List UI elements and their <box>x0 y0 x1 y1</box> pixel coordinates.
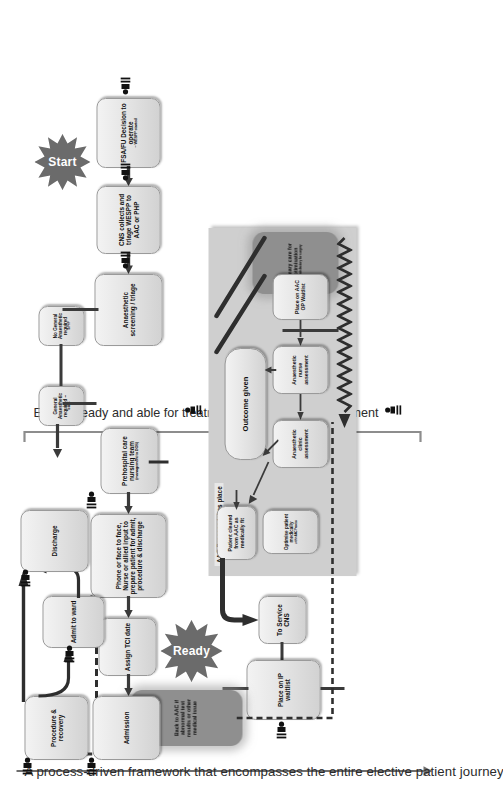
patient-icon-anaesthetic-screening <box>112 248 138 270</box>
connector-aac-to-screening-stem <box>62 402 96 405</box>
node-prehospital-care-nursing-team-sub: (management to DOS) <box>134 442 138 480</box>
node-ga-required[interactable]: General Anaesthetic required – To AAC <box>38 386 84 426</box>
connector-screening-stem <box>62 308 98 311</box>
arrow-waitlist-to-nurse <box>294 320 306 346</box>
node-discharge-label: Discharge <box>50 526 57 557</box>
node-cns-collects[interactable]: CNS collects and triage WESPP to AAC or … <box>96 186 160 254</box>
node-phone-or-face-to-face-label: Phone or face to face, Nurse or allied i… <box>114 517 143 595</box>
node-prehospital-care-nursing-team-label: Prehospital care nursing team <box>120 431 134 491</box>
node-fsa-fu-decision-sub: – WESPP started <box>133 119 137 148</box>
marker-start-label: Start <box>48 155 76 169</box>
node-phone-or-face-to-face[interactable]: Phone or face to face, Nurse or allied i… <box>90 514 166 598</box>
marker-ready-label: Ready <box>172 644 209 658</box>
arrow-assign-tci-to-admission <box>122 674 134 696</box>
node-assign-tci-date[interactable]: Assign TCI date <box>98 618 156 676</box>
node-place-aac-op-waitlist[interactable]: Place on AAC OP Waitlist <box>272 274 328 320</box>
node-anaesthetic-nurse-assessment[interactable]: Anaesthetic nurse assessment <box>272 346 328 394</box>
node-admit-to-ward[interactable]: Admit to ward <box>42 596 104 648</box>
node-admission-label: Admission <box>122 712 129 745</box>
patient-icon-prehospital <box>78 490 104 512</box>
patient-icon-admit-ward <box>56 644 82 666</box>
arrow-nurse-to-outcome <box>264 364 276 376</box>
connector-primary-care-to-clinic <box>210 234 272 330</box>
marker-start: Start <box>34 134 90 190</box>
node-procedure-recovery-label: Procedure & recovery <box>49 699 63 757</box>
node-no-ga-required[interactable]: No General Anaesthetic required To PHP <box>38 306 84 346</box>
node-cns-collects-label: CNS collects and triage WESPP to AAC or … <box>117 189 139 251</box>
patient-icon-procedure <box>14 756 40 778</box>
node-no-ga-required-sub: To PHP <box>67 322 70 331</box>
node-back-to-aac-loop-label: Back to AAC if abnormal test results or … <box>174 692 197 744</box>
node-discharge[interactable]: Discharge <box>20 510 88 572</box>
arrow-phone-to-assign-tci <box>122 596 134 618</box>
node-fsa-fu-decision-label: FSA/FU Decision to operate <box>119 101 133 165</box>
node-admit-to-ward-label: Admit to ward <box>69 601 76 644</box>
arrow-prehospital-to-phone <box>122 492 134 514</box>
connector-waitlist-to-prehospital <box>148 452 258 498</box>
node-fsa-fu-decision[interactable]: FSA/FU Decision to operate – WESPP start… <box>96 98 160 168</box>
waiting-period-zigzag <box>336 234 352 434</box>
connector-waitlist-vertical <box>282 329 338 332</box>
node-place-aac-op-waitlist-label: Place on AAC OP Waitlist <box>294 277 306 317</box>
node-anaesthetic-screening-label: Anaesthetic screening / triage <box>121 277 135 343</box>
node-procedure-recovery[interactable]: Procedure & recovery <box>24 696 88 760</box>
patient-icon-cns <box>112 160 138 182</box>
patient-icon-ensure-ready <box>180 400 206 420</box>
connector-screening-to-ga <box>59 344 62 386</box>
node-anaesthetic-nurse-assessment-label: Anaesthetic nurse assessment <box>291 349 308 391</box>
node-admission[interactable]: Admission <box>92 696 160 760</box>
node-ga-required-label: General Anaesthetic required – <box>52 389 67 423</box>
patient-icon-discharge <box>12 568 38 590</box>
patient-icon-ensure-fit <box>380 400 406 420</box>
node-no-ga-required-label: No General Anaesthetic required <box>52 309 67 343</box>
node-assign-tci-date-label: Assign TCI date <box>123 623 130 671</box>
arrow-ga-to-aac-region <box>50 424 64 458</box>
patient-icon-fsa-fu <box>112 74 138 96</box>
node-anaesthetic-screening[interactable]: Anaesthetic screening / triage <box>94 274 162 346</box>
